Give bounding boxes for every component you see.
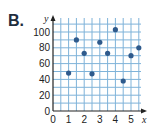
y-axis-arrow-icon [51,15,56,21]
data-point [105,51,110,56]
data-point [121,78,126,83]
data-point [89,71,94,76]
x-tick-label: 4 [113,114,119,125]
x-tick-label: 2 [81,114,87,125]
x-axis-label: x [141,114,147,125]
x-axis-arrow-icon [141,109,147,114]
y-tick-label: 40 [39,74,51,85]
data-point [113,27,118,32]
y-axis-label: y [43,13,49,24]
x-tick-label: 3 [97,114,103,125]
data-point [97,40,102,45]
y-tick-label: 100 [33,27,50,38]
x-tick-label: 1 [66,114,72,125]
data-point [66,70,71,75]
x-tick-label: 5 [128,114,134,125]
scatter-plot: 020406080100012345xy [0,0,154,131]
y-tick-label: 60 [39,58,51,69]
y-tick-label: 80 [39,42,51,53]
x-tick-label: 0 [50,114,56,125]
data-point [136,45,141,50]
y-tick-label: 20 [39,90,51,101]
data-point [128,53,133,58]
data-point [74,37,79,42]
data-point [82,51,87,56]
